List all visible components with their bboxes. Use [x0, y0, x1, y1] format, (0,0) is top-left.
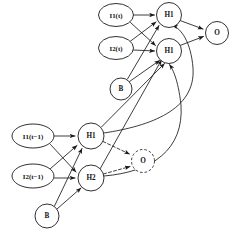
edge-i2t-to-h1t: [130, 22, 156, 42]
node-h2-t-label: H1: [164, 47, 174, 55]
node-i2-tm1[interactable]: I2(t−1): [12, 164, 54, 188]
node-group-bottom: I1(t−1) I2(t−1) B H1 H2 O: [12, 123, 155, 228]
edge-h1tm1-to-otm1: [103, 142, 130, 155]
node-h1-tm1-label: H1: [86, 132, 96, 140]
node-i1-t-label: I1(t): [109, 12, 122, 20]
node-i1-tm1[interactable]: I1(t−1): [12, 124, 54, 148]
edge-i1t-to-h2t: [131, 23, 156, 46]
node-bias-t-label: B: [119, 85, 124, 93]
edge-h1tm1-to-h2t: [102, 64, 165, 128]
edge-h2tm1-to-h1t: [100, 60, 162, 169]
edge-h1t-to-ot: [180, 21, 203, 30]
node-i2-tm1-label: I2(t−1): [23, 173, 43, 181]
node-output-t[interactable]: O: [206, 22, 229, 45]
node-output-tm1[interactable]: O: [132, 150, 155, 173]
node-i2-t[interactable]: I2(t): [99, 37, 134, 60]
network-diagram: I1(t) I2(t) B H1 H1 O: [0, 0, 240, 240]
node-h2-tm1[interactable]: H2: [78, 165, 104, 191]
node-h1-t-label: H1: [164, 11, 174, 19]
node-bias-t[interactable]: B: [110, 78, 132, 100]
node-i2-t-label: I2(t): [109, 45, 122, 53]
figure-canvas: I1(t) I2(t) B H1 H1 O: [0, 0, 240, 240]
node-bias-tm1[interactable]: B: [35, 204, 59, 228]
node-h2-t[interactable]: H1: [157, 39, 182, 64]
node-output-tm1-label: O: [140, 157, 146, 165]
node-i1-t[interactable]: I1(t): [99, 4, 134, 27]
edge-h2t-to-ot: [180, 37, 204, 46]
edge-i1tm1-to-h2tm1: [51, 145, 77, 173]
node-h1-t[interactable]: H1: [157, 3, 182, 28]
node-i1-tm1-label: I1(t−1): [23, 133, 43, 141]
node-output-t-label: O: [214, 29, 220, 37]
edge-i2tm1-to-h1tm1: [50, 146, 77, 170]
edge-btm1-to-h2tm1: [57, 188, 81, 209]
node-h1-tm1[interactable]: H1: [78, 123, 104, 149]
node-bias-tm1-label: B: [45, 212, 50, 220]
node-h2-tm1-label: H2: [86, 174, 96, 182]
node-group-top: I1(t) I2(t) B H1 H1 O: [99, 3, 229, 101]
